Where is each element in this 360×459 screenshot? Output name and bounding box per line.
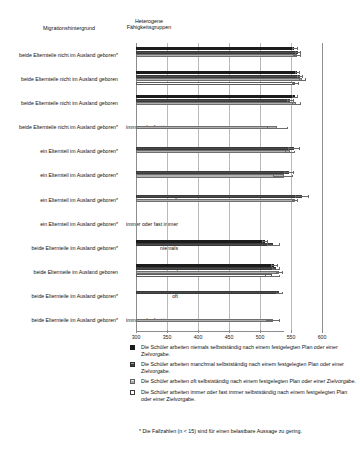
gridline — [136, 43, 137, 332]
bar — [136, 274, 272, 277]
light-hatched-swatch — [130, 379, 135, 384]
legend-item: Die Schüler arbeiten immer oder fast imm… — [130, 389, 358, 402]
legend-item: Die Schüler arbeiten niemals selbstständ… — [130, 344, 358, 357]
chart-figure: Migrationshintergrund Heterogene Fähigke… — [0, 0, 360, 459]
column-header-heterogene-faehigkeitsgruppen: Heterogene Fähigkeitsgruppen — [118, 18, 180, 31]
x-tick-label: 450 — [225, 334, 234, 340]
error-bar — [273, 174, 292, 177]
axis-tick — [291, 330, 292, 333]
column-header-migrationshintergrund: Migrationshintergrund — [20, 25, 118, 31]
gridline — [322, 43, 323, 332]
row-label-migration: ein Elternteil im Ausland geboren* — [8, 197, 118, 203]
legend-item-label: Die Schüler arbeiten niemals selbstständ… — [141, 344, 358, 357]
error-bar — [292, 102, 300, 105]
legend-item-label: Die Schüler arbeiten manchmal selbststän… — [141, 361, 358, 374]
bar — [136, 319, 273, 322]
error-bar — [292, 199, 298, 202]
x-tick-label: 400 — [194, 334, 203, 340]
x-tick-label: 500 — [256, 334, 265, 340]
row-label-migration: beide Elternteile im Ausland geboren — [8, 269, 118, 275]
error-bar — [293, 54, 301, 57]
dark-hatched-swatch — [130, 362, 135, 367]
bar — [136, 199, 295, 202]
bar — [136, 150, 290, 153]
row-label-migration: beide Elternteile nicht im Ausland gebor… — [8, 100, 118, 106]
axis-tick — [322, 330, 323, 333]
bar — [136, 291, 279, 294]
row-label-migration: beide Elternteile nicht im Ausland gebor… — [8, 124, 118, 130]
row-label-migration: ein Elternteil im Ausland geboren* — [8, 172, 118, 178]
white-swatch — [130, 390, 135, 395]
footnote: * Die Fallzahlen (n < 15) sind für einen… — [139, 428, 355, 435]
gridline — [167, 43, 168, 332]
legend: Die Schüler arbeiten niemals selbstständ… — [130, 344, 358, 406]
x-axis-line — [136, 331, 284, 332]
error-bar — [299, 78, 305, 81]
row-label-migration: beide Elternteile im Ausland geboren* — [8, 293, 118, 299]
x-tick-label: 550 — [287, 334, 296, 340]
legend-item-label: Die Schüler arbeiten immer oder fast imm… — [141, 389, 358, 402]
solid-black-swatch — [130, 345, 135, 350]
error-bar — [267, 126, 288, 129]
gridline — [229, 43, 230, 332]
axes — [136, 43, 322, 332]
bar — [136, 54, 297, 57]
error-bar — [285, 150, 295, 153]
bar — [136, 174, 284, 177]
error-bar — [265, 274, 279, 277]
error-bar — [276, 291, 283, 294]
legend-item: Die Schüler arbeiten oft selbstständig n… — [130, 378, 358, 385]
legend-item-label: Die Schüler arbeiten oft selbstständig n… — [141, 378, 358, 385]
error-bar — [292, 82, 298, 85]
gridline — [291, 43, 292, 332]
legend-item: Die Schüler arbeiten manchmal selbststän… — [130, 361, 358, 374]
bar — [136, 82, 295, 85]
row-label-migration: ein Elternteil im Ausland geboren* — [8, 148, 118, 154]
row-label-migration: beide Elternteile nicht im Ausland gebor… — [8, 52, 118, 58]
error-bar — [267, 243, 279, 246]
row-label-migration: beide Elternteile nicht im Ausland gebor… — [8, 76, 118, 82]
x-tick-label: 600 — [318, 334, 327, 340]
row-label-migration: beide Elternteile im Ausland geboren* — [8, 245, 118, 251]
x-tick-label: 300 — [132, 334, 141, 340]
gridline — [198, 43, 199, 332]
gridline — [260, 43, 261, 332]
row-label-migration: beide Elternteile im Ausland geboren* — [8, 317, 118, 323]
bar — [136, 126, 277, 129]
row-label-migration: ein Elternteil im Ausland geboren* — [8, 221, 118, 227]
error-bar — [266, 319, 279, 322]
bar — [136, 102, 296, 105]
bar — [136, 243, 273, 246]
plot-area: 300350400450500550600 — [136, 43, 360, 332]
x-tick-label: 350 — [163, 334, 172, 340]
